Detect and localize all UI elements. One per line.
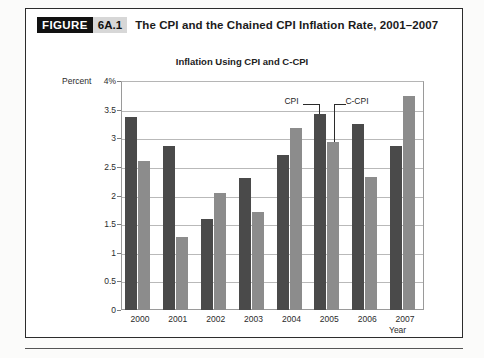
bar-cpi-2001 <box>163 146 175 310</box>
callout-leader-ccpi-horizontal <box>334 104 346 105</box>
y-tick-label: 1 <box>111 248 116 258</box>
bar-cpi-2004 <box>277 155 289 310</box>
bar-group <box>159 81 197 310</box>
bar-group <box>386 81 424 310</box>
y-tick-label: 4% <box>104 76 116 86</box>
y-tick-label: 1.5 <box>104 219 116 229</box>
callout-label-ccpi: C-CPI <box>345 96 368 106</box>
bar-cpi-2005 <box>314 114 326 310</box>
bar-cpi-2007 <box>390 146 402 310</box>
bar-ccpi-2004 <box>290 128 302 310</box>
bar-group <box>121 81 159 310</box>
x-tick-label: 2000 <box>120 314 160 324</box>
callout-leader-cpi-horizontal <box>303 104 320 105</box>
callout-leader-cpi-vertical <box>319 104 320 114</box>
bar-ccpi-2000 <box>138 161 150 310</box>
bar-group <box>235 81 273 310</box>
x-tick-label: 2002 <box>196 314 236 324</box>
y-tick-label: 0 <box>111 305 116 315</box>
bar-group <box>348 81 386 310</box>
y-tick-mark <box>117 310 121 311</box>
x-tick-label: 2003 <box>234 314 274 324</box>
bar-group <box>197 81 235 310</box>
y-tick-label: 3 <box>111 133 116 143</box>
x-tick-label: 2006 <box>347 314 387 324</box>
x-tick-label: 2001 <box>158 314 198 324</box>
bar-ccpi-2001 <box>176 237 188 310</box>
callout-label-cpi: CPI <box>284 96 298 106</box>
x-tick-label: 2004 <box>271 314 311 324</box>
bar-ccpi-2005 <box>327 142 339 310</box>
bar-ccpi-2006 <box>365 177 377 310</box>
x-tick-label: 2005 <box>309 314 349 324</box>
bar-cpi-2002 <box>201 219 213 310</box>
bar-group <box>310 81 348 310</box>
callout-leader-ccpi-vertical <box>334 104 335 142</box>
y-tick-label: 0.5 <box>104 276 116 286</box>
x-tick-label: 2007 <box>385 314 425 324</box>
y-tick-label: 2.5 <box>104 162 116 172</box>
bar-ccpi-2002 <box>214 193 226 310</box>
bar-series-container <box>121 81 424 310</box>
bar-group <box>273 81 311 310</box>
bar-cpi-2006 <box>352 124 364 310</box>
bar-ccpi-2003 <box>252 212 264 310</box>
y-tick-label: 2 <box>111 191 116 201</box>
y-tick-label: 3.5 <box>104 105 116 115</box>
bar-ccpi-2007 <box>403 96 415 310</box>
figure-page: FIGURE 6A.1 The CPI and the Chained CPI … <box>0 0 484 358</box>
chart-plot-area: 4%3.532.521.510.50 200020012002200320042… <box>0 0 484 358</box>
bar-cpi-2003 <box>239 178 251 310</box>
bar-cpi-2000 <box>125 117 137 310</box>
